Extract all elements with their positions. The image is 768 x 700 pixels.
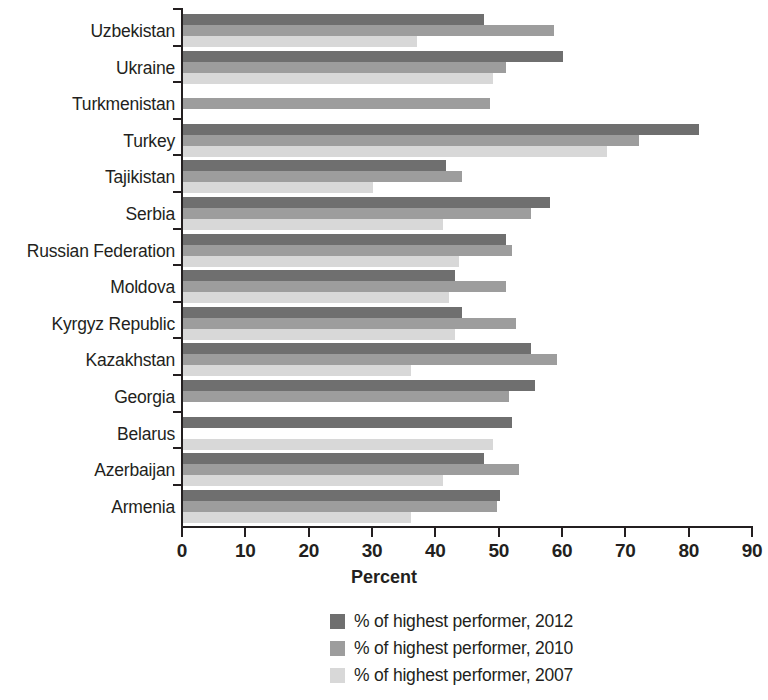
- bar-azerbaijan-s2010: [183, 464, 519, 475]
- x-tick-label: 40: [410, 540, 460, 562]
- y-tick: [173, 45, 182, 47]
- bar-tajikistan-s2007: [183, 182, 373, 193]
- legend-swatch-icon: [330, 668, 345, 683]
- bar-turkey-s2010: [183, 135, 639, 146]
- x-tick-label: 70: [600, 540, 650, 562]
- bar-armenia-s2007: [183, 512, 411, 523]
- y-tick: [173, 411, 182, 413]
- legend-item-s2007: % of highest performer, 2007: [330, 662, 573, 689]
- x-tick: [244, 528, 246, 537]
- bar-armenia-s2012: [183, 490, 500, 501]
- bar-serbia-s2007: [183, 219, 443, 230]
- category-label-serbia: Serbia: [126, 204, 175, 225]
- bar-belarus-s2007: [183, 439, 493, 450]
- x-tick: [688, 528, 690, 537]
- x-tick-label: 20: [284, 540, 334, 562]
- y-tick: [173, 154, 182, 156]
- bar-russian-federation-s2012: [183, 234, 506, 245]
- bar-kyrgyz-republic-s2007: [183, 329, 455, 340]
- bar-uzbekistan-s2010: [183, 25, 554, 36]
- x-axis-line: [181, 526, 753, 528]
- category-label-tajikistan: Tajikistan: [105, 167, 175, 188]
- category-label-georgia: Georgia: [114, 387, 175, 408]
- bar-turkmenistan-s2010: [183, 98, 490, 109]
- category-label-belarus: Belarus: [117, 424, 175, 445]
- category-label-turkmenistan: Turkmenistan: [72, 94, 175, 115]
- x-tick: [498, 528, 500, 537]
- x-tick-label: 60: [537, 540, 587, 562]
- bar-turkey-s2007: [183, 146, 607, 157]
- bar-russian-federation-s2010: [183, 245, 512, 256]
- y-tick: [173, 118, 182, 120]
- category-label-russian-federation: Russian Federation: [27, 241, 175, 262]
- x-tick-label: 0: [157, 540, 207, 562]
- bar-moldova-s2010: [183, 281, 506, 292]
- y-tick: [173, 447, 182, 449]
- bar-uzbekistan-s2012: [183, 14, 484, 25]
- x-tick: [751, 528, 753, 537]
- y-tick: [173, 191, 182, 193]
- x-tick-label: 30: [347, 540, 397, 562]
- y-tick: [173, 337, 182, 339]
- x-tick-label: 90: [727, 540, 768, 562]
- x-tick: [434, 528, 436, 537]
- legend-label: % of highest performer, 2010: [354, 638, 573, 659]
- plot-area: 0102030405060708090 UzbekistanUkraineTur…: [0, 0, 768, 540]
- bar-serbia-s2012: [183, 197, 550, 208]
- y-tick: [173, 228, 182, 230]
- bar-kazakhstan-s2010: [183, 354, 557, 365]
- y-tick: [173, 8, 182, 10]
- x-tick: [561, 528, 563, 537]
- bar-turkey-s2012: [183, 124, 699, 135]
- x-tick: [308, 528, 310, 537]
- legend-item-s2010: % of highest performer, 2010: [330, 635, 573, 662]
- legend-swatch-icon: [330, 614, 345, 629]
- y-tick: [173, 81, 182, 83]
- bar-ukraine-s2010: [183, 62, 506, 73]
- bar-chart: 0102030405060708090 UzbekistanUkraineTur…: [0, 0, 768, 700]
- category-label-azerbaijan: Azerbaijan: [94, 460, 175, 481]
- bar-azerbaijan-s2012: [183, 453, 484, 464]
- category-label-uzbekistan: Uzbekistan: [90, 21, 175, 42]
- y-tick: [173, 484, 182, 486]
- x-tick: [181, 528, 183, 537]
- bar-armenia-s2010: [183, 501, 497, 512]
- bar-tajikistan-s2010: [183, 171, 462, 182]
- category-label-kazakhstan: Kazakhstan: [86, 350, 175, 371]
- bar-georgia-s2012: [183, 380, 535, 391]
- bar-belarus-s2012: [183, 417, 512, 428]
- category-label-armenia: Armenia: [111, 497, 175, 518]
- bar-ukraine-s2012: [183, 51, 563, 62]
- category-label-moldova: Moldova: [110, 277, 175, 298]
- y-tick: [173, 264, 182, 266]
- bar-moldova-s2012: [183, 270, 455, 281]
- legend-swatch-icon: [330, 641, 345, 656]
- category-label-ukraine: Ukraine: [116, 58, 175, 79]
- legend-label: % of highest performer, 2012: [354, 611, 573, 632]
- bar-georgia-s2010: [183, 391, 509, 402]
- category-label-turkey: Turkey: [123, 131, 175, 152]
- y-tick: [173, 374, 182, 376]
- x-tick: [371, 528, 373, 537]
- bar-uzbekistan-s2007: [183, 36, 417, 47]
- bar-tajikistan-s2012: [183, 160, 446, 171]
- bar-kyrgyz-republic-s2012: [183, 307, 462, 318]
- bar-moldova-s2007: [183, 292, 449, 303]
- legend-item-s2012: % of highest performer, 2012: [330, 608, 573, 635]
- legend-label: % of highest performer, 2007: [354, 665, 573, 686]
- bar-serbia-s2010: [183, 208, 531, 219]
- category-label-kyrgyz-republic: Kyrgyz Republic: [52, 314, 175, 335]
- bar-kazakhstan-s2012: [183, 343, 531, 354]
- bar-ukraine-s2007: [183, 73, 493, 84]
- x-tick-label: 10: [220, 540, 270, 562]
- x-tick-label: 80: [664, 540, 714, 562]
- bar-kazakhstan-s2007: [183, 365, 411, 376]
- x-tick: [624, 528, 626, 537]
- x-axis-title: Percent: [0, 567, 768, 588]
- x-tick-label: 50: [474, 540, 524, 562]
- y-tick: [173, 301, 182, 303]
- bar-russian-federation-s2007: [183, 256, 459, 267]
- bar-azerbaijan-s2007: [183, 475, 443, 486]
- bar-kyrgyz-republic-s2010: [183, 318, 516, 329]
